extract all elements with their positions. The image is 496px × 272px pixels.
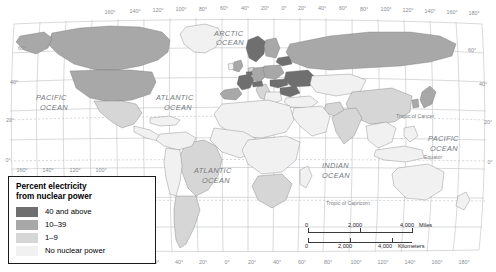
region-southeast-asia	[366, 122, 396, 148]
lat-left-1: 40°	[10, 79, 18, 85]
lon-top-1: 140°	[129, 8, 140, 14]
country-canada	[48, 26, 170, 70]
legend-label-40-and-above: 40 and above	[45, 207, 92, 216]
lon-bot-15: 140°	[404, 259, 415, 265]
region-central-america	[134, 126, 160, 141]
lon-bot-7: 20°	[199, 259, 207, 265]
country-france	[237, 74, 254, 90]
country-switzerland-slovenia	[252, 81, 263, 87]
legend-item-40-and-above: 40 and above	[16, 205, 149, 218]
country-madagascar	[300, 166, 312, 188]
country-bulgaria-romania	[280, 86, 300, 97]
ocean-label-atlantic-s-line2: OCEAN	[202, 176, 230, 185]
scale-tick-miles-0	[308, 228, 309, 233]
lon-bot-14: 120°	[377, 259, 388, 265]
ocean-label-pacific-e-line1: PACIFIC	[428, 134, 459, 143]
country-korea	[412, 99, 419, 108]
country-united-kingdom	[233, 60, 243, 72]
lon-bot-17: 180°	[458, 259, 469, 265]
latitude-labels-left: 60° 40° 20° 0°	[5, 45, 26, 163]
lon-bot-8: 0°	[224, 259, 229, 265]
lon-bot-11: 60°	[298, 259, 306, 265]
region-central-east-africa	[242, 136, 300, 174]
legend-swatch-40-and-above	[16, 207, 38, 217]
label-tropic-of-capricorn: Tropic of Capricorn	[326, 200, 370, 206]
label-equator: Equator	[424, 154, 442, 160]
legend-title-line1: Percent electricity	[16, 182, 149, 192]
region-indonesia	[374, 146, 424, 162]
scale-tick-miles-1	[360, 228, 361, 233]
lon-bot-6: 40°	[175, 259, 183, 265]
ocean-label-pacific-e-line2: OCEAN	[430, 144, 458, 153]
legend-item-1-9: 1–9	[16, 231, 149, 244]
lon-bot-10: 40°	[273, 259, 281, 265]
lat-right-1: 40°	[479, 81, 487, 87]
ocean-label-arctic-line2: OCEAN	[216, 38, 244, 47]
scale-tick-km-0	[308, 238, 309, 243]
lon-top-0: 160°	[104, 9, 115, 15]
lat-right-0: 60°	[468, 47, 476, 53]
country-russia	[286, 32, 456, 70]
ocean-label-arctic-line1: ARCTIC	[213, 29, 244, 38]
scale-label-km-2: 4,000	[378, 243, 392, 249]
scale-unit-kilometers: Kilometers	[398, 243, 424, 249]
country-ireland	[228, 63, 234, 70]
ocean-label-pacific-w-line1: PACIFIC	[36, 93, 67, 102]
legend-swatch-1-9	[16, 233, 38, 243]
region-andes	[164, 148, 182, 196]
lon-top-3: 100°	[175, 6, 186, 12]
lon-top-9: 20°	[298, 5, 306, 11]
country-finland	[264, 38, 280, 58]
scale-bar: 0 2,000 4,000 Miles 0 2,000 4,000 Kilome…	[300, 222, 428, 252]
legend-label-1-9: 1–9	[45, 233, 58, 242]
lon-top-12: 80°	[360, 6, 368, 12]
lon-mid-2: 120°	[69, 167, 80, 173]
lon-top-8: 0°	[281, 5, 286, 11]
ocean-label-atlantic-n-line2: OCEAN	[164, 103, 192, 112]
lon-top-5: 60°	[220, 5, 228, 11]
ocean-label-atlantic-n-line1: ATLANTIC	[155, 93, 194, 102]
region-middle-east	[292, 106, 330, 136]
scale-label-miles-2: 4,000	[400, 222, 414, 228]
world-map: ARCTIC OCEAN PACIFIC OCEAN ATLANTIC OCEA…	[0, 0, 496, 272]
ocean-label-pacific-w-line2: OCEAN	[40, 103, 68, 112]
country-argentina	[174, 196, 200, 248]
lon-bot-16: 160°	[431, 259, 442, 265]
lon-top-11: 60°	[339, 5, 347, 11]
legend-swatch-10-39	[16, 220, 38, 230]
lat-right-2: 20°	[484, 119, 492, 125]
lon-top-10: 40°	[318, 5, 326, 11]
scale-tick-km-2	[392, 238, 393, 243]
scale-label-miles-0: 0	[305, 222, 308, 228]
country-united-states	[70, 70, 156, 102]
legend-item-no-nuclear-power: No nuclear power	[16, 244, 149, 257]
legend-swatch-no-nuclear-power	[16, 246, 38, 256]
ocean-label-atlantic-s-line1: ATLANTIC	[193, 166, 232, 175]
lon-top-6: 40°	[241, 5, 249, 11]
lon-top-15: 140°	[424, 8, 435, 14]
lon-top-16: 160°	[446, 9, 457, 15]
country-new-zealand	[456, 192, 470, 210]
lon-top-7: 20°	[261, 5, 269, 11]
scale-tick-miles-2	[412, 228, 413, 233]
longitude-labels-bottom: 80° 60° 40° 20° 0° 20° 40° 60° 80° 100° …	[127, 259, 470, 265]
lon-mid-1: 140°	[42, 167, 53, 173]
legend-label-10-39: 10–39	[45, 220, 66, 229]
lon-top-14: 120°	[402, 7, 413, 13]
scale-label-km-1: 2,000	[338, 243, 352, 249]
lat-left-2: 20°	[6, 117, 14, 123]
country-japan	[420, 86, 436, 108]
lat-left-3: 0°	[5, 157, 10, 163]
legend-item-10-39: 10–39	[16, 218, 149, 231]
label-tropic-of-cancer: Tropic of Cancer	[396, 113, 434, 119]
lon-bot-12: 80°	[324, 259, 332, 265]
lat-right-3: 0°	[487, 159, 492, 165]
country-australia	[392, 164, 444, 200]
lon-top-2: 120°	[152, 7, 163, 13]
ocean-label-indian-line1: INDIAN	[322, 161, 349, 170]
lon-top-13: 100°	[380, 6, 391, 12]
scale-label-km-0: 0	[305, 243, 308, 249]
lat-left-0: 60°	[18, 45, 26, 51]
region-caribbean	[150, 116, 180, 126]
scale-unit-miles: Miles	[419, 222, 432, 228]
